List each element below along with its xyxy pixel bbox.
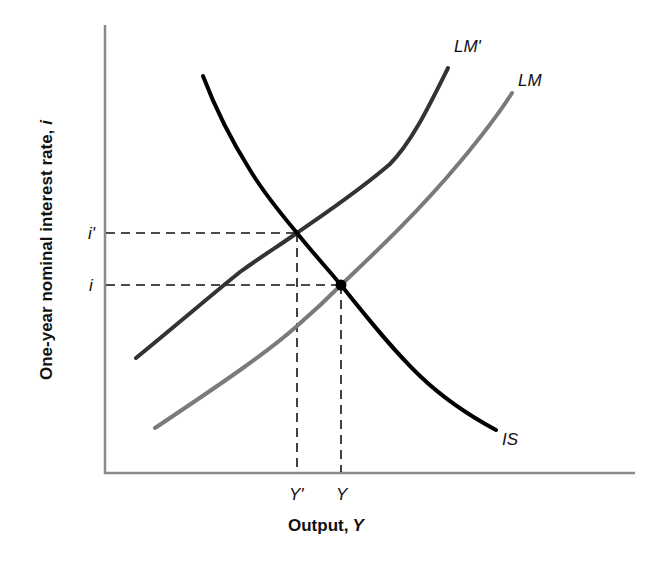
y-axis-title-text: One-year nominal interest rate, xyxy=(37,130,56,380)
y-axis-title-var: i xyxy=(37,119,56,125)
lm-prime-curve xyxy=(136,68,448,358)
tick-i-prime: i' xyxy=(88,224,96,243)
lm-label: LM xyxy=(518,71,542,90)
lm-curve xyxy=(155,93,512,428)
tick-i: i xyxy=(89,276,94,295)
lm-prime-label: LM' xyxy=(454,37,482,56)
x-axis-title-text: Output, xyxy=(288,516,348,535)
equilibrium-point xyxy=(336,280,347,291)
islm-chart: LM' LM IS i' i Y' Y Output,Y One-year no… xyxy=(0,0,660,562)
is-curve xyxy=(203,76,496,430)
y-axis-title: One-year nominal interest rate,i xyxy=(37,119,56,380)
tick-y: Y xyxy=(336,485,349,504)
is-label: IS xyxy=(502,430,519,449)
tick-y-prime: Y' xyxy=(289,485,304,504)
x-axis-title: Output,Y xyxy=(288,516,365,535)
x-axis-title-var: Y xyxy=(352,516,365,535)
